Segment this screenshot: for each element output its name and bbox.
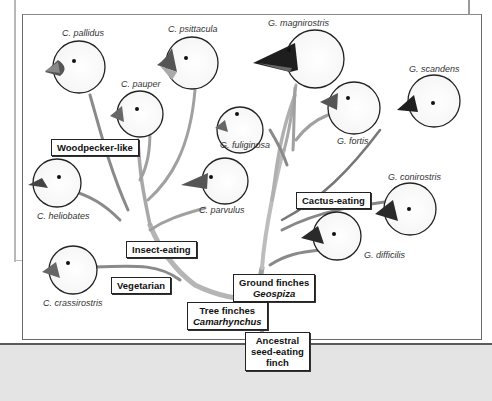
label-insect-eating: Insect-eating <box>126 241 197 258</box>
ground-finches-line1: Ground finches <box>239 277 309 288</box>
species-g-conirostris: G. conirostris <box>388 172 441 182</box>
bird-g-scandens <box>397 75 460 127</box>
label-ground-finches: Ground finches Geospiza <box>233 274 315 302</box>
species-g-fuliginosa: G. fuliginosa <box>220 140 270 150</box>
bird-c-crassirostris <box>42 246 97 294</box>
bird-c-pallidus <box>45 41 105 93</box>
bird-g-fortis <box>320 82 380 134</box>
species-c-pauper: C. pauper <box>121 79 161 89</box>
species-g-magnirostris: G. magnirostris <box>268 18 329 28</box>
label-vegetarian: Vegetarian <box>111 277 171 294</box>
tree-finches-line1: Tree finches <box>193 305 262 316</box>
bird-c-pauper <box>110 91 163 137</box>
bird-g-magnirostris <box>253 30 344 88</box>
ground-finches-genus: Geospiza <box>253 288 295 299</box>
species-g-fortis: G. fortis <box>337 136 369 146</box>
label-ancestral-finch: Ancestral seed-eating finch <box>245 332 310 371</box>
bird-c-parvulus <box>181 158 248 204</box>
label-woodpecker-like: Woodpecker-like <box>51 139 139 156</box>
root-line3: finch <box>251 357 304 368</box>
species-c-pallidus: C. pallidus <box>62 28 104 38</box>
root-line2: seed-eating <box>251 346 304 357</box>
species-g-difficilis: G. difficilis <box>364 250 405 260</box>
species-c-parvulus: C. parvulus <box>199 205 245 215</box>
species-c-psittacula: C. psittacula <box>168 24 218 34</box>
species-c-crassirostris: C. crassirostris <box>43 298 103 308</box>
label-cactus-eating: Cactus-eating <box>296 192 371 209</box>
species-c-heliobates: C. heliobates <box>37 211 90 221</box>
bird-g-conirostris <box>375 183 436 235</box>
tree-finches-line2: Camarhynchus <box>193 316 262 327</box>
bird-c-heliobates <box>28 159 81 207</box>
root-line1: Ancestral <box>251 335 304 346</box>
tree-finches-genus: Camarhynchus <box>193 316 262 327</box>
ground-finches-line2: Geospiza <box>239 288 309 299</box>
species-g-scandens: G. scandens <box>409 64 460 74</box>
bird-c-psittacula <box>157 37 218 89</box>
label-tree-finches: Tree finches Camarhynchus <box>187 302 268 330</box>
